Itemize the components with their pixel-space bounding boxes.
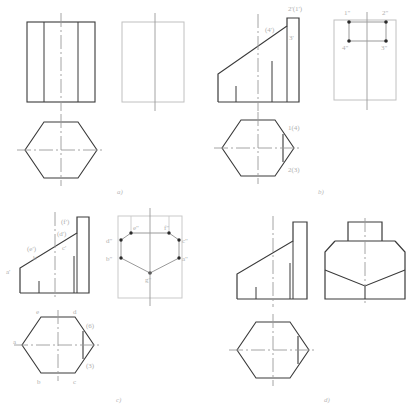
label-c-13: e xyxy=(36,308,39,316)
label-c-5: c' xyxy=(62,244,66,252)
label-c-1: b' xyxy=(33,254,38,262)
label-c-11: a" xyxy=(182,255,188,263)
point-4-marker xyxy=(347,39,351,43)
panel-c: a' b' (e') (d') (f') c' d" e" f" c" b" a… xyxy=(0,200,204,413)
label-b-4: 2" xyxy=(382,9,389,17)
label-c-12: g" xyxy=(145,276,152,284)
label-b-1: (4') xyxy=(265,26,275,34)
panel-a-side-view xyxy=(122,22,184,102)
panel-b-side-view xyxy=(334,20,396,100)
panel-c-front-view xyxy=(20,217,89,293)
panel-a-caption: a) xyxy=(117,188,123,196)
label-c-16: (6) xyxy=(86,322,95,330)
panel-a: a) xyxy=(0,0,204,207)
drawing-sheet: a) xyxy=(0,0,407,413)
label-c-10: b" xyxy=(106,255,113,263)
label-b-0: 2'(1') xyxy=(288,5,303,13)
label-c-3: (d') xyxy=(57,230,67,238)
point-d-marker xyxy=(119,238,122,241)
label-c-7: e" xyxy=(133,224,139,232)
panel-d-figures xyxy=(204,200,407,413)
label-b-3: 1" xyxy=(344,9,351,17)
point-2-marker xyxy=(384,20,388,24)
label-b-7: 1(4) xyxy=(288,124,300,132)
label-c-9: c" xyxy=(182,237,188,245)
panel-b-front-view xyxy=(218,18,299,102)
label-b-5: 4" xyxy=(342,44,349,52)
panel-c-caption: c) xyxy=(116,396,121,404)
panel-d: d) xyxy=(204,200,407,413)
panel-c-figures: a' b' (e') (d') (f') c' d" e" f" c" b" a… xyxy=(0,200,204,413)
point-3-marker xyxy=(384,39,388,43)
label-b-6: 3" xyxy=(381,44,388,52)
label-c-0: a' xyxy=(6,268,10,276)
label-b-2: 3' xyxy=(289,34,294,42)
panel-b: 2'(1') (4') 3' 1" 2" 4" 3" 1(4) 2(3) b) xyxy=(204,0,407,207)
label-b-8: 2(3) xyxy=(288,166,300,174)
point-a-marker xyxy=(177,256,180,259)
point-1-marker xyxy=(347,20,351,24)
label-c-4: (f') xyxy=(61,218,70,226)
label-c-19: c xyxy=(73,378,76,386)
label-c-14: d xyxy=(73,308,77,316)
panel-d-caption: d) xyxy=(324,396,330,404)
point-b-marker xyxy=(119,256,122,259)
panel-d-front-view xyxy=(237,222,307,299)
label-c-18: b xyxy=(37,378,41,386)
panel-b-figures: 2'(1') (4') 3' 1" 2" 4" 3" 1(4) 2(3) xyxy=(204,0,407,207)
label-c-17: (3) xyxy=(86,362,95,370)
panel-b-caption: b) xyxy=(318,188,324,196)
label-c-8: f" xyxy=(164,224,169,232)
point-c-marker xyxy=(177,238,180,241)
panel-a-figures xyxy=(0,0,204,207)
label-c-2: (e') xyxy=(27,245,37,253)
label-c-6: d" xyxy=(106,237,113,245)
